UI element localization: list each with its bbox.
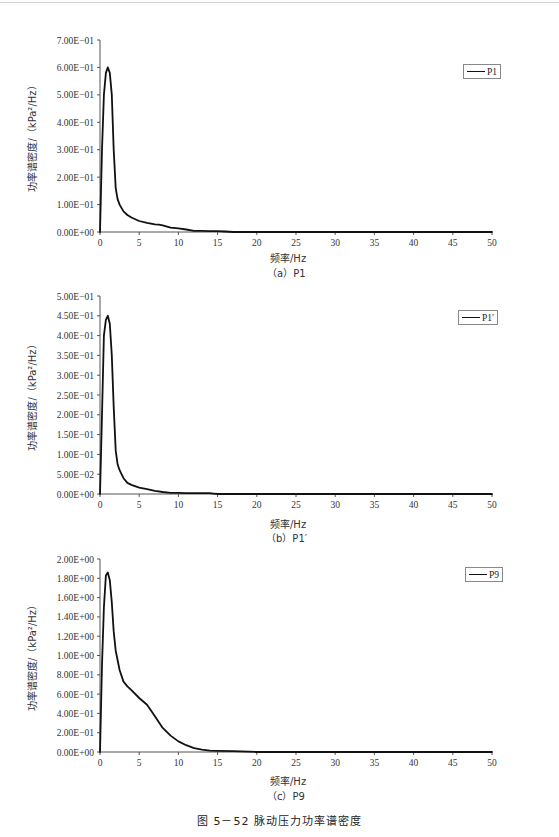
x-tick-label: 45 — [448, 758, 458, 768]
chart-c: 0.00E+002.00E−014.00E−016.00E−018.00E−01… — [0, 0, 559, 800]
figure-caption: 图 5－52 脉动压力功率谱密度 — [0, 812, 559, 828]
x-tick-label: 15 — [213, 758, 223, 768]
x-tick-label: 10 — [174, 758, 184, 768]
chart-c-subcaption: （c）P9 — [267, 788, 305, 803]
y-tick-label: 6.00E−01 — [57, 690, 95, 700]
x-tick-label: 25 — [291, 758, 301, 768]
x-tick-label: 50 — [487, 758, 497, 768]
x-tick-label: 35 — [370, 758, 380, 768]
x-tick-label: 20 — [252, 758, 262, 768]
y-tick-label: 2.00E+00 — [57, 555, 95, 565]
y-tick-label: 1.20E+00 — [57, 632, 95, 642]
y-tick-label: 1.80E+00 — [57, 574, 95, 584]
x-tick-label: 30 — [330, 758, 340, 768]
y-tick-label: 0.00E+00 — [57, 748, 95, 758]
x-tick-label: 0 — [98, 758, 103, 768]
y-tick-label: 1.60E+00 — [57, 593, 95, 603]
legend-line-swatch-icon — [469, 574, 487, 575]
y-tick-label: 8.00E−01 — [57, 670, 95, 680]
chart-c-x-axis-label: 频率/Hz — [270, 773, 306, 788]
chart-c-legend-label: P9 — [489, 570, 499, 580]
y-tick-label: 2.00E−01 — [57, 728, 95, 738]
y-axis-label: 功率谱密度/（kPa²/Hz） — [26, 600, 38, 711]
y-tick-label: 1.00E+00 — [57, 651, 95, 661]
x-tick-label: 40 — [409, 758, 419, 768]
series-line — [100, 573, 492, 753]
x-tick-label: 5 — [137, 758, 142, 768]
chart-c-plot: 0.00E+002.00E−014.00E−016.00E−018.00E−01… — [0, 0, 559, 800]
chart-c-legend: P9 — [465, 567, 503, 582]
y-tick-label: 1.40E+00 — [57, 612, 95, 622]
y-tick-label: 4.00E−01 — [57, 709, 95, 719]
